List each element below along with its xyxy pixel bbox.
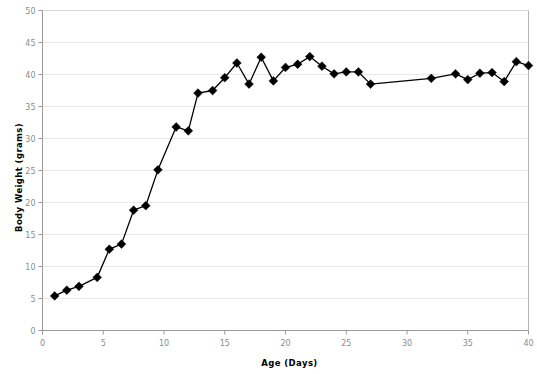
data-point-marker <box>93 273 102 282</box>
data-point-marker <box>184 126 193 135</box>
x-tick-label: 0 <box>40 339 45 348</box>
y-tick-label: 0 <box>30 327 35 336</box>
data-point-marker <box>245 80 254 89</box>
x-tick-label: 15 <box>220 339 230 348</box>
y-tick-label: 40 <box>25 71 35 80</box>
data-point-marker <box>488 68 497 77</box>
data-point-marker <box>330 69 339 78</box>
y-tick-label: 35 <box>25 103 35 112</box>
x-tick-label: 30 <box>402 339 412 348</box>
data-point-marker <box>117 240 126 249</box>
data-point-marker <box>75 282 84 291</box>
data-point-marker <box>293 60 302 69</box>
y-tick-label: 10 <box>25 263 35 272</box>
data-point-marker <box>105 245 114 254</box>
data-point-marker <box>524 61 533 70</box>
data-point-marker <box>257 53 266 62</box>
data-point-marker <box>451 69 460 78</box>
data-point-marker <box>476 69 485 78</box>
data-point-marker <box>154 165 163 174</box>
y-tick-label: 20 <box>25 199 35 208</box>
y-axis-ticks-group: 05101520253035404550 <box>25 7 42 336</box>
data-point-marker <box>129 206 138 215</box>
y-tick-label: 15 <box>25 231 35 240</box>
x-tick-label: 40 <box>523 339 533 348</box>
data-point-marker <box>512 57 521 66</box>
chart-container: 05101520253035404550 0510152025303540 Ag… <box>0 0 537 374</box>
line-chart-plot: 05101520253035404550 0510152025303540 <box>0 0 537 374</box>
x-axis-ticks-group: 0510152025303540 <box>40 331 534 348</box>
data-point-marker <box>500 77 509 86</box>
x-tick-label: 20 <box>280 339 290 348</box>
y-tick-label: 50 <box>25 7 35 16</box>
y-axis-title: Body Weight (grams) <box>14 123 24 232</box>
x-tick-label: 5 <box>101 339 106 348</box>
x-tick-label: 35 <box>463 339 473 348</box>
y-tick-label: 5 <box>30 295 35 304</box>
data-point-marker <box>342 68 351 77</box>
gridlines-group <box>43 11 529 299</box>
series-line <box>55 57 529 296</box>
y-tick-label: 25 <box>25 167 35 176</box>
data-point-marker <box>62 286 71 295</box>
y-tick-label: 45 <box>25 39 35 48</box>
data-point-marker <box>463 75 472 84</box>
x-tick-label: 25 <box>341 339 351 348</box>
x-tick-label: 10 <box>159 339 169 348</box>
x-axis-title: Age (Days) <box>0 358 537 368</box>
data-series-group <box>50 52 533 300</box>
data-point-marker <box>50 292 59 301</box>
data-point-marker <box>194 89 203 98</box>
data-point-marker <box>172 123 181 132</box>
y-tick-label: 30 <box>25 135 35 144</box>
data-point-marker <box>427 74 436 83</box>
